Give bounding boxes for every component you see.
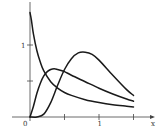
x-axis-label: x: [151, 120, 155, 128]
chart: 0 1 x 1: [0, 0, 160, 129]
series-curve-3: [30, 52, 134, 117]
series-layer: [30, 13, 134, 118]
x-tick-label-1: 1: [98, 120, 102, 128]
series-curve-1: [30, 13, 134, 107]
series-curve-2: [30, 69, 134, 117]
axis-ticks: [27, 45, 134, 120]
x-axis-arrow-icon: [150, 115, 155, 119]
y-tick-label-1: 1: [21, 42, 25, 50]
origin-label: 0: [23, 120, 27, 128]
